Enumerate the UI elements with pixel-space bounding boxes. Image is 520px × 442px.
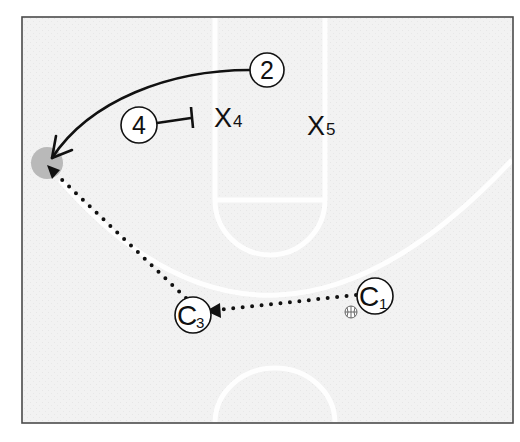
player-2[interactable]: 2 <box>250 53 284 87</box>
coach-c3-number: 3 <box>196 314 204 331</box>
defender-x5-number: 5 <box>326 120 335 139</box>
defender-x4-letter: X <box>214 103 232 133</box>
player-2-label: 2 <box>260 56 274 84</box>
player-4-label: 4 <box>132 111 146 139</box>
player-4[interactable]: 4 <box>121 107 157 143</box>
defender-x5-letter: X <box>307 111 325 141</box>
target-spot <box>31 147 63 179</box>
play-diagram: 2 4 X 4 X 5 C 3 C 1 <box>0 0 520 442</box>
basketball-icon <box>345 306 357 318</box>
coach-c1-letter: C <box>359 281 379 312</box>
coach-c1-number: 1 <box>379 295 387 312</box>
coach-c3-letter: C <box>177 300 197 331</box>
coach-c3[interactable]: C 3 <box>175 297 211 333</box>
coach-c1[interactable]: C 1 <box>357 278 393 314</box>
defender-x4-number: 4 <box>233 112 242 131</box>
